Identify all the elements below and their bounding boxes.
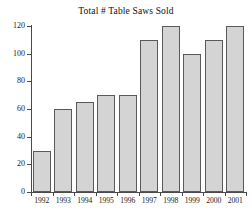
x-tick-mark (139, 192, 140, 196)
y-tick-label: 100 (13, 50, 25, 58)
bar-2001 (226, 26, 244, 192)
chart-title: Total # Table Saws Sold (0, 6, 252, 16)
y-tick-mark (27, 81, 31, 82)
x-tick-mark (96, 192, 97, 196)
x-tick-mark (74, 192, 75, 196)
x-tick-label: 1997 (142, 197, 157, 205)
bar-1998 (162, 26, 180, 192)
y-tick-mark (27, 164, 31, 165)
x-tick-mark (160, 192, 161, 196)
x-tick-label: 2000 (206, 197, 221, 205)
x-tick-label: 1993 (56, 197, 71, 205)
x-tick-label: 1995 (99, 197, 114, 205)
x-tick-label: 1994 (77, 197, 92, 205)
y-tick-mark (27, 137, 31, 138)
y-tick-label: 120 (13, 22, 25, 30)
x-tick-mark (246, 192, 247, 196)
bar-1995 (97, 95, 115, 192)
bar-1992 (33, 151, 51, 193)
x-tick-label: 1992 (34, 197, 49, 205)
bar-1993 (54, 109, 72, 192)
x-tick-label: 2001 (228, 197, 243, 205)
y-tick-mark (27, 109, 31, 110)
bar-1997 (140, 40, 158, 192)
y-tick-label: 40 (17, 133, 25, 141)
x-tick-mark (182, 192, 183, 196)
bar-1996 (119, 95, 137, 192)
x-tick-mark (117, 192, 118, 196)
y-tick-label: 20 (17, 160, 25, 168)
bar-1994 (76, 102, 94, 192)
x-tick-mark (225, 192, 226, 196)
bar-chart: Total # Table Saws Sold 020406080100120 … (0, 0, 252, 220)
x-tick-mark (203, 192, 204, 196)
x-tick-mark (31, 192, 32, 196)
y-tick-label: 60 (17, 105, 25, 113)
x-tick-label: 1998 (163, 197, 178, 205)
plot-area: 020406080100120 199219931994199519961997… (31, 26, 246, 192)
bar-1999 (183, 54, 201, 192)
x-tick-label: 1996 (120, 197, 135, 205)
y-tick-label: 80 (17, 77, 25, 85)
x-tick-label: 1999 (185, 197, 200, 205)
y-tick-label: 0 (21, 188, 25, 196)
bar-2000 (205, 40, 223, 192)
y-tick-mark (27, 26, 31, 27)
y-tick-mark (27, 54, 31, 55)
x-tick-mark (53, 192, 54, 196)
